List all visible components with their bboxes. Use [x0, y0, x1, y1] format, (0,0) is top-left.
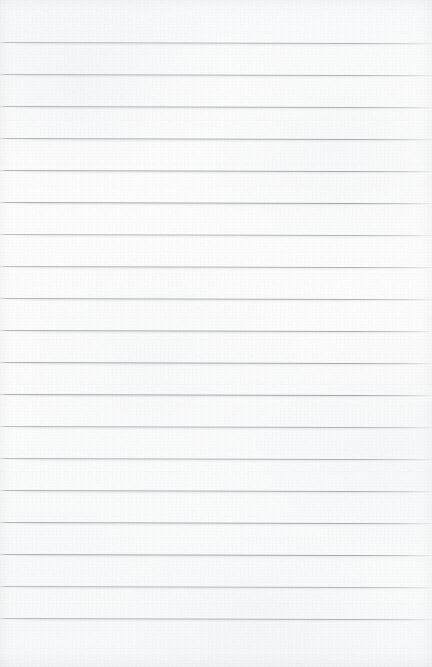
- rule-line: [0, 586, 432, 588]
- rule-line-ink: [0, 74, 432, 76]
- rule-line-ink: [0, 330, 432, 332]
- rule-line-halo: [0, 427, 432, 430]
- rule-line-halo: [0, 107, 432, 110]
- rule-line: [0, 170, 432, 172]
- ruled-lines-group: [0, 0, 432, 667]
- rule-line-ink: [0, 106, 432, 108]
- rule-line-ink: [0, 362, 432, 364]
- paper-scan-banding: [0, 0, 432, 667]
- rule-line: [0, 554, 432, 556]
- rule-line-halo: [0, 459, 432, 462]
- rule-line-ink: [0, 554, 432, 556]
- rule-line: [0, 330, 432, 332]
- rule-line-ink: [0, 618, 432, 620]
- rule-line-halo: [0, 203, 432, 206]
- rule-line: [0, 394, 432, 396]
- rule-line-halo: [0, 395, 432, 398]
- rule-line-halo: [0, 363, 432, 366]
- paper-edge-shading: [0, 0, 432, 667]
- rule-line-halo: [0, 491, 432, 494]
- rule-line: [0, 106, 432, 108]
- rule-line-ink: [0, 394, 432, 396]
- rule-line: [0, 42, 432, 44]
- rule-line-ink: [0, 522, 432, 524]
- rule-line-halo: [0, 139, 432, 142]
- rule-line: [0, 490, 432, 492]
- notebook-paper-sheet: [0, 0, 432, 667]
- rule-line: [0, 618, 432, 620]
- rule-line-halo: [0, 299, 432, 302]
- rule-line: [0, 458, 432, 460]
- rule-line-halo: [0, 619, 432, 622]
- rule-line: [0, 298, 432, 300]
- rule-line: [0, 202, 432, 204]
- rule-line-halo: [0, 75, 432, 78]
- rule-line-ink: [0, 138, 432, 140]
- paper-grain-texture: [0, 0, 432, 667]
- rule-line-halo: [0, 43, 432, 46]
- rule-line-halo: [0, 267, 432, 270]
- rule-line-ink: [0, 234, 432, 236]
- rule-line-halo: [0, 331, 432, 334]
- rule-line-ink: [0, 266, 432, 268]
- rule-line-halo: [0, 235, 432, 238]
- rule-line-ink: [0, 426, 432, 428]
- rule-line: [0, 362, 432, 364]
- rule-line: [0, 138, 432, 140]
- rule-line-ink: [0, 170, 432, 172]
- rule-line-ink: [0, 42, 432, 44]
- rule-line-ink: [0, 298, 432, 300]
- rule-line-ink: [0, 586, 432, 588]
- rule-line-halo: [0, 555, 432, 558]
- rule-line: [0, 234, 432, 236]
- rule-line: [0, 266, 432, 268]
- rule-line-halo: [0, 523, 432, 526]
- rule-line-halo: [0, 587, 432, 590]
- rule-line-ink: [0, 202, 432, 204]
- rule-line: [0, 426, 432, 428]
- rule-line: [0, 522, 432, 524]
- rule-line-ink: [0, 458, 432, 460]
- rule-line: [0, 74, 432, 76]
- rule-line-halo: [0, 171, 432, 174]
- rule-line-ink: [0, 490, 432, 492]
